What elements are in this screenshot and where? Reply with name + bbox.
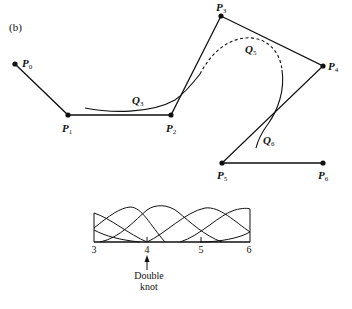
basis-function-plot bbox=[94, 206, 250, 242]
panel-label: (b) bbox=[9, 22, 22, 33]
double-knot-arrow bbox=[145, 255, 150, 270]
bspline-figure: (b) P0 P1 P2 P3 P4 P5 P6 Q3 Q5 Q6 3 4 5 … bbox=[0, 0, 352, 309]
label-p1: P1 bbox=[62, 123, 72, 136]
control-point-dots bbox=[12, 13, 325, 165]
curve-segment-q5 bbox=[200, 38, 282, 74]
tick-6: 6 bbox=[247, 245, 252, 255]
label-q5: Q5 bbox=[245, 44, 256, 57]
tick-3: 3 bbox=[92, 245, 97, 255]
tick-4: 4 bbox=[145, 245, 150, 255]
label-q6: Q6 bbox=[263, 135, 274, 148]
double-knot-annotation: Double knot bbox=[129, 270, 169, 292]
tick-5: 5 bbox=[199, 245, 204, 255]
label-p4: P4 bbox=[328, 61, 338, 74]
label-p0: P0 bbox=[22, 58, 32, 71]
figure-graphics bbox=[0, 0, 352, 309]
label-p3: P3 bbox=[216, 2, 226, 15]
label-p6: P6 bbox=[318, 170, 328, 183]
label-q3: Q3 bbox=[132, 95, 143, 108]
label-p2: P2 bbox=[166, 123, 176, 136]
label-p5: P5 bbox=[217, 170, 227, 183]
control-polygon bbox=[15, 16, 323, 163]
